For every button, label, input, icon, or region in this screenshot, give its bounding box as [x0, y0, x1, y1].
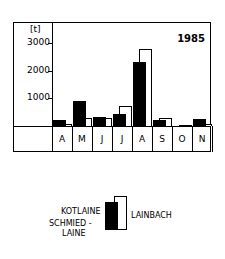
tick-2000	[48, 71, 52, 72]
y-unit-label: [t]	[30, 24, 41, 34]
bar-kotlaine	[113, 114, 126, 126]
month-label: S	[152, 126, 173, 152]
legend-label-schmied: SCHMIED -	[49, 219, 92, 228]
legend-swatch-kotlaine	[105, 202, 118, 230]
bar-kotlaine	[73, 101, 86, 126]
month-label: A	[132, 126, 153, 152]
month-label: N	[192, 126, 213, 152]
bar-kotlaine	[193, 119, 206, 126]
month-label: O	[172, 126, 193, 152]
tick-label-1000: 1000	[27, 92, 50, 102]
tick-1000	[48, 98, 52, 99]
tick-label-2000: 2000	[27, 65, 50, 75]
bar-kotlaine	[93, 117, 106, 126]
month-label: M	[72, 126, 93, 152]
bar-kotlaine	[133, 62, 146, 126]
tick-label-3000: 3000	[27, 37, 50, 47]
month-label: A	[52, 126, 73, 152]
month-label: J	[92, 126, 113, 152]
legend-label-lainbach: LAINBACH	[131, 211, 172, 220]
year-label: 1985	[177, 33, 205, 44]
tick-3000	[48, 43, 52, 44]
legend-label-laine: LAINE	[62, 229, 86, 238]
month-label: J	[112, 126, 133, 152]
legend-label-kotlaine: KOTLAINE	[61, 207, 101, 216]
